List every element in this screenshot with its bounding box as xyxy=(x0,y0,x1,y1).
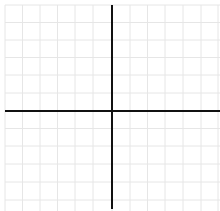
axes xyxy=(5,5,220,209)
coordinate-plane xyxy=(0,0,220,211)
